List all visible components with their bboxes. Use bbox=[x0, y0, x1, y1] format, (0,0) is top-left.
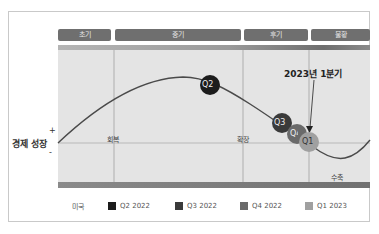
annotation-text: 2023년 1분기 bbox=[284, 67, 342, 80]
legend-item-q4-2022: Q4 2022 bbox=[240, 202, 305, 210]
legend-label: Q4 2022 bbox=[252, 202, 282, 210]
marker-q3-label: Q3 bbox=[274, 118, 285, 127]
region-recovery: 회복 bbox=[107, 134, 119, 144]
legend-item-q2-2022: Q2 2022 bbox=[108, 202, 175, 210]
region-expansion: 확장 bbox=[237, 134, 249, 144]
marker-q1-label: Q1 bbox=[302, 137, 313, 146]
y-axis-plus: + bbox=[49, 126, 56, 135]
region-contraction: 수축 bbox=[331, 172, 343, 182]
marker-q4-label: Q4 bbox=[290, 129, 298, 138]
legend-label: Q3 2022 bbox=[187, 202, 217, 210]
legend: 미국 Q2 2022 Q3 2022 Q4 2022 Q1 2023 bbox=[60, 200, 347, 212]
chart-plot bbox=[0, 0, 379, 234]
y-axis-label: 경제 성장 bbox=[12, 137, 47, 150]
top-gradient-bar bbox=[58, 45, 370, 50]
legend-swatch bbox=[175, 202, 183, 210]
legend-item-q1-2023: Q1 2023 bbox=[305, 202, 347, 210]
legend-label: 미국 bbox=[72, 201, 84, 211]
legend-label: Q1 2023 bbox=[317, 202, 347, 210]
legend-label: Q2 2022 bbox=[120, 202, 150, 210]
bottom-bar bbox=[58, 182, 370, 188]
legend-swatch bbox=[60, 202, 68, 210]
legend-item-q3-2022: Q3 2022 bbox=[175, 202, 240, 210]
legend-swatch bbox=[240, 202, 248, 210]
y-axis-minus: - bbox=[49, 148, 52, 157]
legend-swatch bbox=[108, 202, 116, 210]
marker-q2-label: Q2 bbox=[202, 80, 213, 89]
legend-item-usa: 미국 bbox=[60, 201, 108, 211]
legend-swatch bbox=[305, 202, 313, 210]
